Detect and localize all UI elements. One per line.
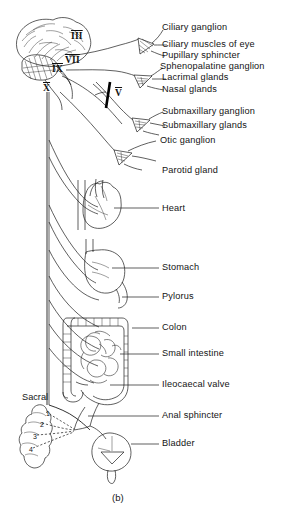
ciliary-ganglion-node [138, 30, 167, 56]
sphenopalatine-ganglion-node [134, 68, 166, 90]
vagal-branches [49, 140, 99, 383]
diagram-canvas [0, 0, 288, 516]
sacral-vertebrae-illustration [19, 405, 52, 468]
submaxillary-ganglion-node [132, 112, 165, 135]
small-intestine-illustration [81, 331, 121, 383]
vagus-nerve-trunk [47, 92, 49, 405]
bladder-illustration [92, 433, 131, 484]
cranial-nerve-fibers [60, 39, 139, 152]
otic-ganglion-node [114, 141, 156, 170]
heart-illustration [78, 179, 121, 230]
brain-illustration [16, 18, 90, 110]
anatomical-figure: Ciliary ganglion Ciliary muscles of eye … [0, 0, 288, 516]
ileocaecal-valve-marker [76, 382, 88, 385]
